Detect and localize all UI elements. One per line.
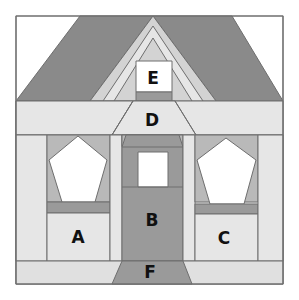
label-e: E: [147, 70, 159, 87]
label-f: F: [144, 264, 156, 281]
label-b: B: [146, 212, 159, 229]
door-top-trim: [122, 135, 183, 147]
label-c: C: [218, 230, 230, 247]
left-inner-column: [110, 135, 122, 261]
label-d: D: [145, 112, 159, 129]
right-window-sill: [195, 204, 258, 214]
house-block-diagram: [0, 0, 299, 300]
right-inner-column: [183, 135, 195, 261]
left-column: [16, 135, 47, 261]
left-window-sill: [47, 202, 110, 213]
window-e-sill: [136, 92, 172, 101]
door-window: [138, 152, 168, 187]
label-a: A: [71, 229, 84, 246]
right-column: [258, 135, 283, 261]
